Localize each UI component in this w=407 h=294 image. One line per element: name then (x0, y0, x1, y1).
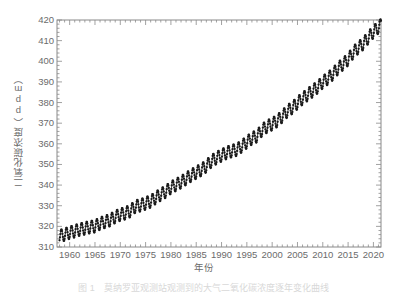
x-axis-tick-label: 2020 (356, 250, 390, 260)
x-axis-title: 年份 (0, 260, 407, 274)
figure-caption: 图 1 莫纳罗亚观测站观测到的大气二氧化碳浓度逐年变化曲线 (0, 281, 407, 294)
